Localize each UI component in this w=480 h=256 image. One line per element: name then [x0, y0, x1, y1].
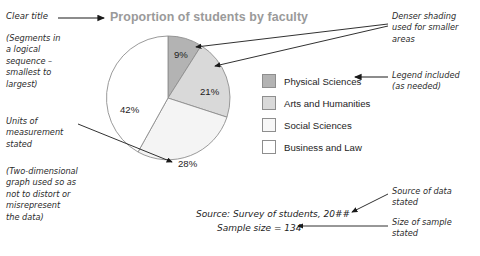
- arrow-denser-shading-1: [196, 24, 388, 47]
- arrow-source-of-data: [352, 194, 388, 212]
- arrow-units-stated: [78, 124, 172, 162]
- chart-figure: Proportion of students by faculty 9% 21%…: [0, 0, 480, 256]
- arrow-denser-shading-2: [215, 26, 388, 66]
- annotation-arrows: [0, 0, 480, 256]
